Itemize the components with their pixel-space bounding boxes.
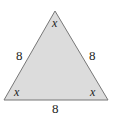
triangle-diagram: x x x 8 8 8	[0, 0, 118, 115]
side-label-left: 8	[16, 48, 23, 63]
angle-label-bottom-right: x	[89, 85, 96, 99]
side-label-bottom: 8	[52, 101, 59, 115]
side-label-right: 8	[89, 48, 96, 63]
angle-label-bottom-left: x	[13, 85, 20, 99]
angle-label-top: x	[51, 16, 58, 30]
